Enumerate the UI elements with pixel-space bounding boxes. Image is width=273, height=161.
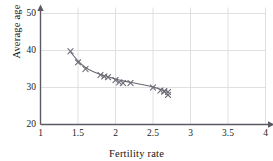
- data-point-marker: [165, 92, 170, 97]
- x-tick-label: 1.5: [72, 129, 84, 139]
- x-tick-label: 1: [38, 129, 43, 139]
- x-tick-label: 4: [263, 129, 268, 139]
- data-point-markers: [68, 49, 171, 98]
- x-axis-arrow-icon: [268, 121, 273, 127]
- x-tick-label: 3.5: [222, 129, 234, 139]
- data-point-marker: [68, 49, 73, 54]
- x-tick-label: 3: [188, 129, 193, 139]
- y-tick-label: 30: [16, 83, 36, 93]
- axis-lines: [37, 5, 273, 128]
- y-axis-title: Average age: [11, 0, 22, 80]
- x-tick-label: 2.5: [147, 129, 159, 139]
- vertical-gridlines: [78, 8, 266, 125]
- y-tick-label: 20: [16, 120, 36, 130]
- y-axis-arrow-icon: [37, 5, 43, 12]
- scatter-chart: 11.522.533.54 20304050 Fertility rate Av…: [0, 0, 273, 161]
- x-axis-title: Fertility rate: [0, 148, 273, 159]
- x-tick-label: 2: [113, 129, 118, 139]
